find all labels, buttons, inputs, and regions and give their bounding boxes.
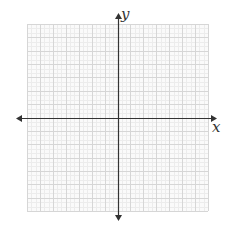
- y-axis-label: y: [120, 5, 130, 23]
- coordinate-plane: x y: [0, 0, 231, 228]
- x-axis-left-arrow-icon: [16, 115, 22, 122]
- y-axis-down-arrow-icon: [115, 215, 122, 221]
- x-axis-label: x: [212, 118, 221, 136]
- grid-background: [27, 24, 208, 211]
